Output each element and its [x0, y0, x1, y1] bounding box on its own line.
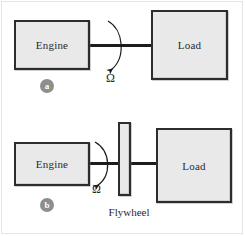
panel-b-flywheel-label: Flywheel	[94, 207, 164, 218]
panel-b-speed-label: Ω	[92, 183, 101, 195]
panel-b-flywheel-block	[118, 122, 131, 196]
panel-a-engine-label: Engine	[16, 40, 88, 51]
panel-b-load-block: Load	[156, 128, 232, 203]
panel-b-badge: b	[40, 198, 54, 212]
panel-b-shaft-engine-side	[88, 162, 120, 165]
panel-b-load-label: Load	[158, 160, 230, 171]
panel-a-badge: a	[40, 79, 54, 93]
panel-b-engine-block: Engine	[14, 142, 90, 186]
panel-a-engine-block: Engine	[14, 20, 90, 70]
engine-load-flywheel-figure: Engine Load Ω a Engine Load Ω Flywheel	[0, 0, 245, 236]
panel-b-engine-label: Engine	[16, 159, 88, 170]
panel-a-load-block: Load	[151, 10, 228, 80]
panel-a-load-label: Load	[153, 40, 226, 51]
panel-a-speed-label: Ω	[106, 72, 115, 84]
panel-a-shaft	[88, 44, 152, 47]
panel-b-shaft-load-side	[129, 162, 157, 165]
